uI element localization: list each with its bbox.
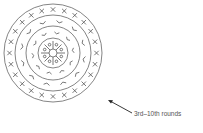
x-stitch-icon [51,94,55,98]
loop-stitch-icon [43,48,46,51]
v-stitch-icon [40,21,46,24]
rounds-label: 3rd–10th rounds [134,110,181,117]
loop-stitch-icon [48,60,51,63]
loop-stitch-icon [48,43,51,46]
loop-stitch-icon [60,48,63,51]
spoke-icon [45,45,51,51]
stitch-marks [7,7,98,98]
v-stitch-icon [67,37,70,41]
v-stitch-icon [60,82,66,85]
spoke-icon [56,45,62,51]
v-stitch-icon [47,72,52,74]
spoke-icon [56,56,62,62]
x-stitch-icon [82,82,86,86]
x-stitch-icon [20,82,24,86]
loop-stitch-icon [43,55,46,58]
x-stitch-icon [9,62,13,66]
v-stitch-icon [72,27,76,31]
x-stitch-icon [88,73,92,77]
x-stitch-icon [82,20,86,24]
v-stitch-icon [33,41,36,45]
x-stitch-icon [7,51,11,55]
annotation-arrow [108,100,132,113]
x-stitch-icon [9,40,13,44]
x-stitch-icon [73,13,77,17]
v-stitch-icon [70,61,73,65]
x-stitch-icon [20,20,24,24]
v-stitch-icon [21,44,23,50]
x-stitch-icon [62,93,66,97]
x-stitch-icon [40,9,44,13]
v-stitch-icon [60,71,65,73]
loop-stitch-icon [55,43,58,46]
v-stitch-icon [42,33,47,35]
x-stitch-icon [93,62,97,66]
v-stitch-icon [32,53,34,58]
v-stitch-icon [27,29,31,33]
x-stitch-icon [94,51,98,55]
loop-stitch-icon [55,60,58,63]
x-stitch-icon [51,7,55,11]
v-stitch-icon [82,40,85,46]
rings [4,4,102,102]
v-stitch-icon [36,66,39,70]
x-stitch-icon [88,29,92,33]
center-ring [49,49,57,57]
x-stitch-icon [73,88,77,92]
v-stitch-icon [21,60,24,66]
spoke-icon [45,56,51,62]
x-stitch-icon [13,29,17,33]
v-stitch-icon [54,32,59,34]
x-stitch-icon [29,13,33,17]
v-stitch-icon [44,83,50,85]
v-stitch-icon [72,48,74,53]
v-stitch-icon [75,72,79,76]
x-stitch-icon [13,73,17,77]
x-stitch-icon [93,40,97,44]
x-stitch-icon [62,9,66,13]
x-stitch-icon [29,88,33,92]
outer-ring [4,4,102,102]
v-stitch-icon [57,21,63,23]
v-stitch-icon [83,57,85,63]
second-ring [26,26,80,80]
loop-stitch-icon [60,55,63,58]
x-stitch-icon [40,93,44,97]
v-stitch-icon [29,75,33,79]
